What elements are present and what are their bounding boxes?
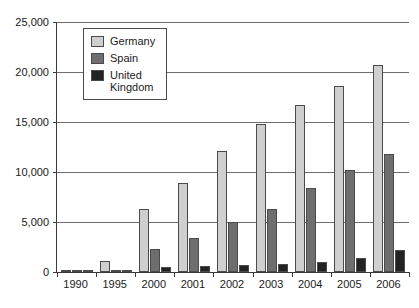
x-tick-label: 2004 [298, 278, 322, 290]
y-tick-label: 15,000 [0, 116, 49, 128]
legend-item[interactable]: United Kingdom [91, 69, 160, 93]
x-tick-label: 2001 [181, 278, 205, 290]
x-tick-label: 2002 [220, 278, 244, 290]
bar[interactable] [295, 105, 305, 272]
x-tick-label: 2000 [142, 278, 166, 290]
bars [253, 22, 292, 272]
bar[interactable] [122, 270, 132, 272]
x-tick-mark [331, 272, 332, 277]
legend-item[interactable]: Spain [91, 52, 160, 64]
x-tick-label: 2006 [376, 278, 400, 290]
bar[interactable] [83, 270, 93, 272]
x-tick-mark [174, 272, 175, 277]
bar[interactable] [334, 86, 344, 272]
y-tick-label: 20,000 [0, 66, 49, 78]
chart-legend: GermanySpainUnited Kingdom [83, 28, 167, 100]
bars [174, 22, 213, 272]
legend-swatch-icon [91, 53, 104, 64]
y-tick-label: 25,000 [0, 16, 49, 28]
legend-swatch-icon [91, 70, 104, 81]
bar[interactable] [356, 258, 366, 272]
legend-item[interactable]: Germany [91, 35, 160, 47]
bar[interactable] [178, 183, 188, 272]
bar[interactable] [345, 170, 355, 272]
bar-chart: 05,00010,00015,00020,00025,000 199019952… [0, 0, 419, 308]
x-tick-mark [370, 272, 371, 277]
x-tick-label: 1995 [102, 278, 126, 290]
bar-group [213, 22, 252, 272]
bars [213, 22, 252, 272]
bar[interactable] [111, 270, 121, 273]
y-tick-label: 10,000 [0, 166, 49, 178]
bar-group [174, 22, 213, 272]
bar[interactable] [239, 265, 249, 272]
x-tick-label: 2003 [259, 278, 283, 290]
x-tick-mark [135, 272, 136, 277]
bar-group [292, 22, 331, 272]
bar[interactable] [256, 124, 266, 272]
bar[interactable] [395, 250, 405, 272]
bar[interactable] [278, 264, 288, 272]
bar[interactable] [373, 65, 383, 272]
legend-label: Spain [110, 52, 138, 64]
x-tick-mark [409, 272, 410, 277]
bars [292, 22, 331, 272]
x-tick-mark [57, 272, 58, 277]
bar[interactable] [306, 188, 316, 272]
bar-group [253, 22, 292, 272]
x-tick-mark [213, 272, 214, 277]
x-tick-label: 1990 [63, 278, 87, 290]
x-tick-mark [292, 272, 293, 277]
bar[interactable] [61, 270, 71, 272]
y-tick-label: 5,000 [0, 216, 49, 228]
x-tick-label: 2005 [337, 278, 361, 290]
bar-group [331, 22, 370, 272]
bar[interactable] [384, 154, 394, 272]
x-tick-mark [96, 272, 97, 277]
legend-swatch-icon [91, 36, 104, 47]
bar[interactable] [100, 261, 110, 272]
bar[interactable] [317, 262, 327, 272]
bar[interactable] [189, 238, 199, 272]
bar[interactable] [150, 249, 160, 273]
bars [370, 22, 409, 272]
legend-label: United Kingdom [110, 69, 153, 93]
bar[interactable] [139, 209, 149, 272]
bar-group [370, 22, 409, 272]
bar[interactable] [267, 209, 277, 272]
legend-label: Germany [110, 35, 155, 47]
bar[interactable] [161, 267, 171, 272]
bar[interactable] [217, 151, 227, 272]
bars [331, 22, 370, 272]
y-tick-label: 0 [0, 266, 49, 278]
bar[interactable] [200, 266, 210, 272]
bar[interactable] [72, 270, 82, 272]
bar[interactable] [228, 222, 238, 272]
x-tick-mark [253, 272, 254, 277]
